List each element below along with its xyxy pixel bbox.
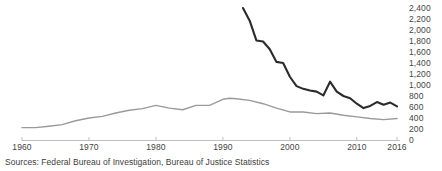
- x-axis-tick-label: 2000: [280, 143, 299, 152]
- y-axis-tick-label: 200: [409, 125, 423, 134]
- y-axis-tick-label: 2,000: [409, 26, 431, 35]
- y-axis-tick-label: 1,800: [409, 37, 431, 46]
- y-axis-tick-label: 1,400: [409, 59, 431, 68]
- y-axis-tick-label: 800: [409, 92, 423, 101]
- y-axis-tick-label: 600: [409, 103, 423, 112]
- y-axis-tick-label: 1,000: [409, 81, 431, 90]
- y-axis-tick-label: 0: [409, 136, 414, 145]
- crime-rate-line-chart: 2,4002,2002,0001,8001,6001,4001,2001,000…: [0, 0, 442, 171]
- y-axis-tick-label: 1,200: [409, 70, 431, 79]
- violent-crime-line: [243, 8, 397, 108]
- y-axis-tick-label: 400: [409, 114, 423, 123]
- x-axis-tick-label: 1960: [12, 143, 31, 152]
- axis-group: [22, 137, 400, 141]
- property-crime-line: [22, 98, 397, 127]
- x-axis-tick-label: 1980: [146, 143, 165, 152]
- source-note: Sources: Federal Bureau of Investigation…: [5, 157, 269, 167]
- y-axis-tick-label: 2,200: [409, 15, 431, 24]
- x-axis-tick-label: 2016: [387, 143, 406, 152]
- x-axis-tick-label: 2010: [347, 143, 366, 152]
- y-axis-tick-label: 2,400: [409, 4, 431, 13]
- x-axis-tick-marks: [22, 137, 397, 141]
- y-axis-tick-label: 1,600: [409, 48, 431, 57]
- x-axis-tick-label: 1990: [213, 143, 232, 152]
- x-axis-tick-label: 1970: [79, 143, 98, 152]
